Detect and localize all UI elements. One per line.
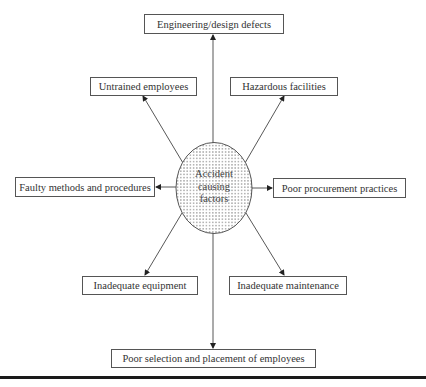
factor-box-inadequate-maintenance: Inadequate maintenance (229, 276, 347, 295)
arrow-to-inadequate-equipment (145, 213, 182, 275)
factor-box-poor-selection: Poor selection and placement of employee… (111, 349, 316, 368)
factor-label: Poor procurement practices (282, 183, 397, 194)
center-label-line-2: causing (180, 181, 248, 194)
factor-label: Inadequate maintenance (237, 280, 339, 291)
arrow-to-hazardous-facilities (245, 96, 284, 163)
bottom-rule-divider (0, 376, 426, 379)
factor-box-untrained-employees: Untrained employees (90, 77, 197, 96)
factor-box-inadequate-equipment: Inadequate equipment (82, 276, 198, 295)
factor-box-poor-procurement: Poor procurement practices (273, 178, 406, 198)
factor-box-engineering-defects: Engineering/design defects (144, 14, 284, 34)
center-label-line-1: Accident (180, 168, 248, 181)
factor-label: Hazardous facilities (242, 81, 326, 92)
factor-label: Untrained employees (99, 81, 189, 92)
factor-label: Inadequate equipment (93, 280, 186, 291)
factor-label: Poor selection and placement of employee… (122, 353, 304, 364)
factor-label: Engineering/design defects (157, 19, 271, 30)
arrow-to-inadequate-maintenance (246, 213, 284, 275)
factor-label: Faulty methods and procedures (19, 182, 151, 193)
center-label-line-3: factors (180, 193, 248, 206)
center-label: Accident causing factors (180, 168, 248, 206)
factor-box-hazardous-facilities: Hazardous facilities (230, 77, 338, 96)
arrow-to-untrained-employees (143, 96, 183, 163)
factor-box-faulty-methods: Faulty methods and procedures (15, 177, 155, 197)
